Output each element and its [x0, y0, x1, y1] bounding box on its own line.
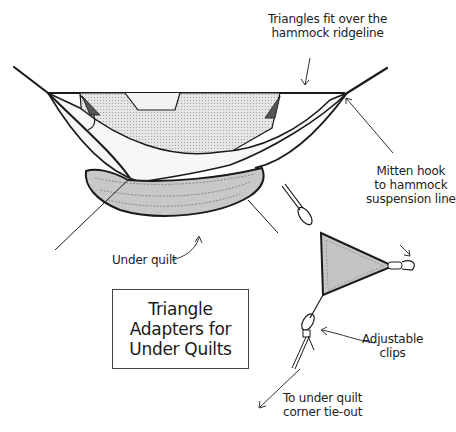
label-mitten-line1: Mitten hook: [366, 164, 456, 178]
label-under-quilt: Under quilt: [112, 253, 177, 267]
label-clips-line1: Adjustable: [362, 332, 423, 346]
title-line1: Triangle: [148, 299, 212, 319]
label-tieout-line1: To under quilt: [283, 391, 362, 405]
label-adjustable-clips: Adjustable clips: [362, 332, 423, 360]
label-mitten-hook: Mitten hook to hammock suspension line: [366, 164, 456, 206]
label-ridgeline: Triangles fit over the hammock ridgeline: [268, 12, 387, 40]
under-quilt: [55, 168, 278, 250]
title-line2: Adapters for: [130, 319, 231, 339]
title-line3: Under Quilts: [129, 339, 231, 359]
suspension-lines: [14, 67, 387, 93]
label-mitten-line2: to hammock: [366, 178, 456, 192]
label-tieout-line2: corner tie-out: [283, 405, 362, 419]
title-box: Triangle Adapters for Under Quilts: [112, 289, 249, 369]
label-clips-line2: clips: [362, 346, 423, 360]
label-ridgeline-line1: Triangles fit over the: [268, 12, 387, 26]
label-ridgeline-line2: hammock ridgeline: [268, 26, 387, 40]
label-tie-out: To under quilt corner tie-out: [283, 391, 362, 419]
label-mitten-line3: suspension line: [366, 192, 456, 206]
